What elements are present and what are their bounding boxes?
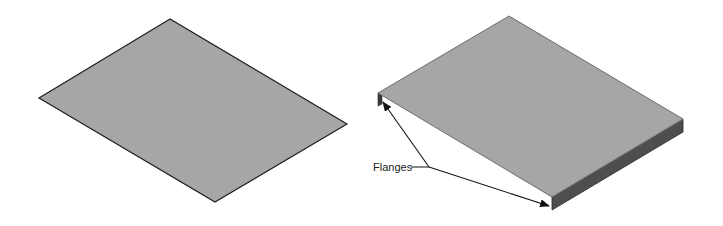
flanges-label: Flanges [373,161,412,173]
bent-sheet [378,16,683,210]
flat-sheet [39,19,347,202]
diagram-canvas [0,0,723,226]
sheet-top [378,16,683,197]
